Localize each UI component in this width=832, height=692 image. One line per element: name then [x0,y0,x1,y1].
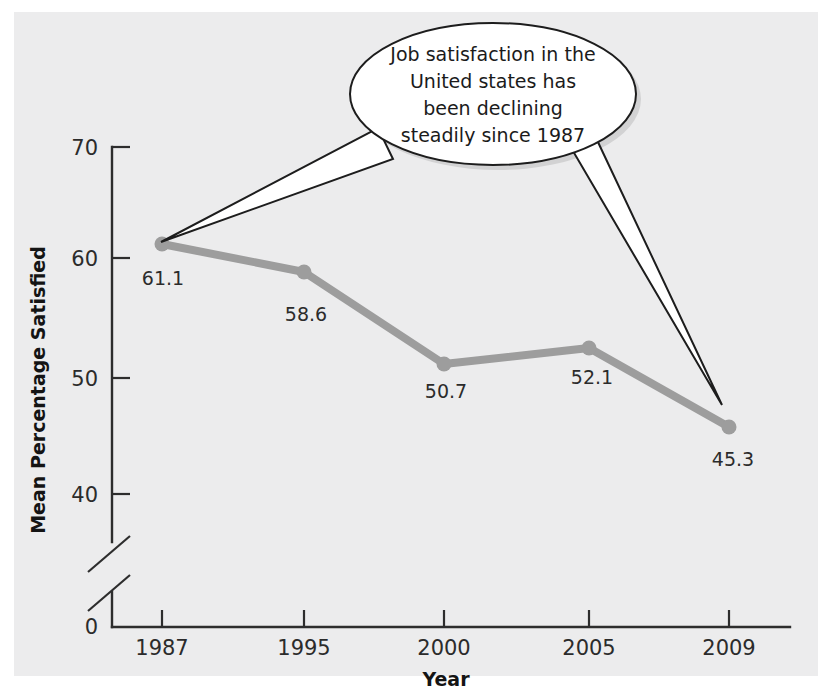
data-label-1987: 61.1 [142,267,184,289]
y-tick-label-60: 60 [71,247,98,271]
data-point-2005 [582,341,597,356]
y-tick-label-70: 70 [71,136,98,160]
callout-tail-left [161,128,393,242]
x-tick-label-2005: 2005 [562,636,615,660]
y-axis-title: Mean Percentage Satisfied [27,246,49,534]
axis-break-slash-upper [88,536,130,572]
callout-line-2: United states has [410,70,576,92]
x-tick-label-1987: 1987 [135,636,188,660]
x-tick-label-1995: 1995 [277,636,330,660]
y-tick-label-0: 0 [85,615,98,639]
data-label-2005: 52.1 [571,366,613,388]
callout-line-3: been declining [423,97,563,119]
chart-figure: 70 60 50 40 0 Mean Percentage Satisfied … [0,0,832,692]
data-point-1995 [297,265,312,280]
line-chart: 70 60 50 40 0 Mean Percentage Satisfied … [0,0,832,692]
data-point-2000 [437,357,452,372]
callout-line-1: Job satisfaction in the [389,43,595,65]
data-label-1995: 58.6 [285,303,327,325]
x-tick-label-2000: 2000 [417,636,470,660]
callout-annotation: Job satisfaction in the United states ha… [161,23,722,405]
data-point-2009 [722,420,737,435]
data-label-2009: 45.3 [712,448,754,470]
axis-break-slash-lower [88,575,130,611]
y-axis: 70 60 50 40 0 Mean Percentage Satisfied [27,136,130,639]
data-label-2000: 50.7 [425,380,467,402]
y-tick-label-50: 50 [71,367,98,391]
x-axis: 1987 1995 2000 2005 2009 Year [112,610,790,690]
x-tick-label-2009: 2009 [702,636,755,660]
callout-line-4: steadily since 1987 [401,124,585,146]
y-tick-label-40: 40 [71,483,98,507]
x-axis-title: Year [421,668,470,690]
